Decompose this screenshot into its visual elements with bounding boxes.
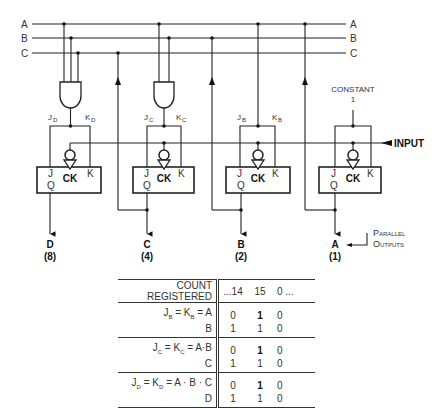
header-label: COUNT REGISTERED <box>118 280 218 303</box>
clock-inversion-bubble-icon <box>65 150 75 160</box>
clock-inversion-bubble-icon <box>253 150 263 160</box>
clock-inversion-bubble-icon <box>348 150 358 160</box>
output-c-label: C <box>143 239 150 250</box>
svg-text:Q: Q <box>237 180 245 191</box>
bus-label-a-right: A <box>350 19 357 30</box>
svg-text:D: D <box>91 117 96 123</box>
svg-text:Q: Q <box>143 180 151 191</box>
svg-text:Q: Q <box>330 180 338 191</box>
table-row: D 1 1 0 <box>118 393 315 408</box>
svg-text:C: C <box>182 117 187 123</box>
svg-text:K: K <box>178 168 185 179</box>
count-truth-table: COUNT REGISTERED ...14 15 0 ... JB = KB … <box>118 279 315 408</box>
table-row: C 1 1 0 <box>118 358 315 373</box>
svg-text:Q: Q <box>47 180 55 191</box>
svg-text:C: C <box>149 117 154 123</box>
svg-text:B: B <box>242 117 246 123</box>
parallel-outputs-annotation: Parallel Outputs <box>346 228 406 249</box>
clock-inversion-bubble-icon <box>159 150 169 160</box>
output-a-weight: (1) <box>329 251 341 262</box>
svg-text:K: K <box>367 168 374 179</box>
flip-flop-d: J K Q CK D (8) <box>37 150 101 262</box>
svg-text:D: D <box>53 117 58 123</box>
svg-text:B: B <box>278 117 282 123</box>
and-gate-icon <box>60 82 81 108</box>
output-a-label: A <box>331 239 338 250</box>
table-row: JD = KD = A · B · C 0 1 0 <box>118 373 315 394</box>
constant-label: CONSTANT <box>331 85 375 94</box>
output-d-label: D <box>46 239 53 250</box>
parallel-outputs-line2: Outputs <box>373 239 404 249</box>
svg-text:CK: CK <box>157 173 172 184</box>
svg-text:J: J <box>144 168 149 179</box>
svg-text:K: K <box>87 168 94 179</box>
svg-text:J: J <box>144 113 148 122</box>
svg-text:J: J <box>331 168 336 179</box>
output-b-weight: (2) <box>235 251 247 262</box>
svg-text:J: J <box>48 168 53 179</box>
header-col-14: ...14 <box>219 280 247 303</box>
output-d-weight: (8) <box>44 251 56 262</box>
table-row: JB = KB = A 0 1 0 <box>118 303 315 324</box>
flip-flop-c: J K Q CK C (4) <box>133 150 194 262</box>
bus-label-b-right: B <box>350 33 357 44</box>
svg-text:K: K <box>272 168 279 179</box>
table-row: JC = KC = A·B 0 1 0 <box>118 338 315 359</box>
bus-label-b-left: B <box>21 33 28 44</box>
table-header-row: COUNT REGISTERED ...14 15 0 ... <box>118 280 315 303</box>
svg-text:CK: CK <box>251 173 266 184</box>
svg-text:J: J <box>48 113 52 122</box>
bus-label-a-left: A <box>21 19 28 30</box>
header-col-0: 0 ... <box>273 280 315 303</box>
svg-text:J: J <box>237 113 241 122</box>
parallel-outputs-line1: Parallel <box>373 228 406 238</box>
and-gate-icon <box>154 82 174 108</box>
table-row: B 1 1 0 <box>118 323 315 338</box>
bus-label-c-left: C <box>21 48 28 59</box>
output-b-label: B <box>237 239 244 250</box>
bus-label-c-right: C <box>350 48 357 59</box>
flip-flop-b: J K Q CK B (2) <box>226 150 290 262</box>
input-label: INPUT <box>394 138 424 149</box>
jk-counter-diagram: A A B B C C <box>0 0 442 270</box>
svg-text:J: J <box>237 168 242 179</box>
constant-value: 1 <box>351 95 356 104</box>
svg-text:CK: CK <box>346 173 361 184</box>
header-col-15: 15 <box>247 280 273 303</box>
svg-text:CK: CK <box>63 173 78 184</box>
output-c-weight: (4) <box>141 251 153 262</box>
